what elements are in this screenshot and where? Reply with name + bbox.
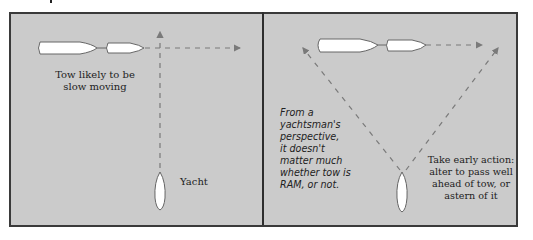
tow-label: Tow likely to be slow moving	[40, 69, 150, 93]
ram-note: From a yachtsman's perspective, it doesn…	[280, 107, 380, 191]
note-line: matter much	[280, 155, 380, 167]
note-line: From a	[280, 107, 380, 119]
action-line: Take early action:	[424, 154, 518, 166]
yacht-label: Yacht	[180, 176, 220, 188]
tug-vessel-icon	[318, 39, 378, 52]
yacht-hull-icon	[155, 172, 165, 210]
action-note: Take early action: alter to pass well ah…	[424, 154, 518, 202]
tug-vessel-icon	[39, 42, 98, 54]
action-line: alter to pass well	[424, 166, 518, 178]
tow-label-line: slow moving	[40, 81, 150, 93]
towed-vessel-icon	[387, 40, 427, 51]
note-line: whether tow is	[280, 167, 380, 179]
note-line: RAM, or not.	[280, 179, 380, 191]
action-line: astern of it	[424, 190, 518, 202]
pass-ahead-arrow-icon	[406, 48, 498, 170]
note-line: it doesn't	[280, 143, 380, 155]
yacht-hull-icon	[397, 172, 407, 212]
tow-label-line: Tow likely to be	[40, 69, 150, 81]
towed-vessel-icon	[107, 43, 145, 53]
action-line: ahead of tow, or	[424, 178, 518, 190]
note-line: yachtsman's	[280, 119, 380, 131]
note-line: perspective,	[280, 131, 380, 143]
